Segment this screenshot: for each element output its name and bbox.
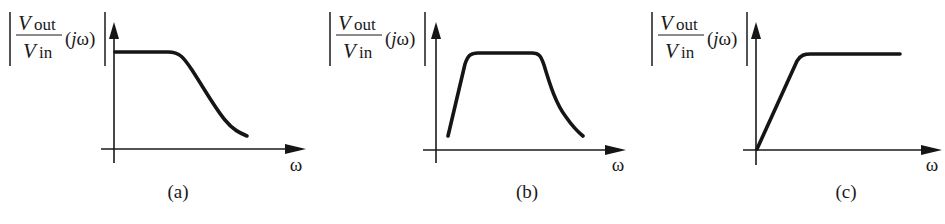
argument-jw: (jω) <box>707 28 737 50</box>
x-axis-arrow-icon <box>285 144 306 154</box>
denominator-V: V <box>23 39 38 63</box>
numerator-sub: out <box>34 15 56 34</box>
argument-jw: (jω) <box>65 28 95 50</box>
frequency-response-curve-low-pass <box>115 52 247 136</box>
numerator-V: V <box>660 11 675 35</box>
filter-response-figure: VoutVin(jω)ω(a)VoutVin(jω)ω(b)VoutVin(jω… <box>0 0 945 224</box>
denominator-V: V <box>343 39 358 63</box>
ylabel-magnitude: VoutVin(jω) <box>652 11 747 66</box>
denominator-V: V <box>665 39 680 63</box>
denominator-sub: in <box>681 43 695 62</box>
panel-a: VoutVin(jω)ω(a) <box>10 11 306 203</box>
denominator-sub: in <box>39 43 53 62</box>
argument-jw: (jω) <box>385 28 415 50</box>
ylabel-magnitude: VoutVin(jω) <box>330 11 425 66</box>
y-axis-arrow-icon <box>751 22 761 39</box>
x-axis-label-omega: ω <box>612 154 625 175</box>
numerator-V: V <box>18 11 33 35</box>
panel-b: VoutVin(jω)ω(b) <box>330 11 626 203</box>
panel-c: VoutVin(jω)ω(c) <box>652 11 942 203</box>
numerator-sub: out <box>354 15 376 34</box>
numerator-sub: out <box>676 15 698 34</box>
frequency-response-curve-band-pass <box>448 53 583 136</box>
y-axis-arrow-icon <box>109 22 119 39</box>
panel-caption: (b) <box>516 181 538 203</box>
ylabel-magnitude: VoutVin(jω) <box>10 11 105 66</box>
denominator-sub: in <box>359 43 373 62</box>
x-axis-label-omega: ω <box>926 154 939 175</box>
panel-caption: (c) <box>835 181 856 203</box>
y-axis-arrow-icon <box>431 22 441 39</box>
x-axis-label-omega: ω <box>290 154 303 175</box>
frequency-response-curve-high-pass <box>757 54 900 149</box>
panel-caption: (a) <box>167 181 188 203</box>
numerator-V: V <box>338 11 353 35</box>
